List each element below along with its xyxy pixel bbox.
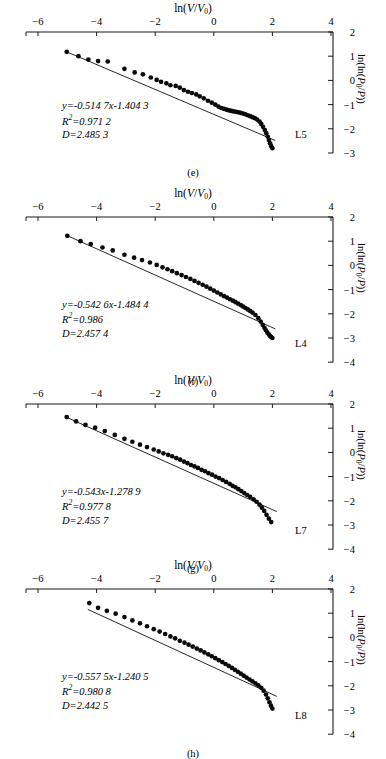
r2-g: R2=0.977 8 [62,498,141,513]
plot-area-g: ln(V/V0) −6−4−2024 210−1−2−3−4 ln(ln(P0/… [0,372,386,537]
scatter-canvas-g [0,372,386,563]
chart-panel-e: ln(V/V0) −6−4−2024 210−1−2−3 ln(ln(P0/P)… [0,0,386,186]
r2-f: R2=0.986 [62,311,148,326]
scatter-canvas-h [0,557,386,748]
chart-panel-f: ln(V/V0) −6−4−2024 210−1−2−3−4 ln(ln(P0/… [0,185,386,372]
equation-g: y=-0.543x-1.278 9 [62,485,141,499]
plot-area-e: ln(V/V0) −6−4−2024 210−1−2−3 ln(ln(P0/P)… [0,0,386,165]
sample-label-g: L7 [295,525,307,536]
equation-box-g: y=-0.543x-1.278 9 R2=0.977 8 D=2.455 7 [62,485,141,528]
equation-h: y=-0.557 5x-1.240 5 [62,670,148,684]
chart-panel-g: ln(V/V0) −6−4−2024 210−1−2−3−4 ln(ln(P0/… [0,372,386,557]
sample-label-h: L8 [295,710,307,721]
plot-area-f: ln(V/V0) −6−4−2024 210−1−2−3−4 ln(ln(P0/… [0,185,386,350]
plot-area-h: ln(V/V0) −6−4−2024 210−1−2−3−4 ln(ln(P0/… [0,557,386,722]
r2-h: R2=0.980 8 [62,683,148,698]
fractal-dimension-f: D=2.457 4 [62,327,148,341]
chart-panel-h: ln(V/V0) −6−4−2024 210−1−2−3−4 ln(ln(P0/… [0,557,386,747]
r2-e: R2=0.971 2 [62,113,148,128]
equation-box-f: y=-0.542 6x-1.484 4 R2=0.986 D=2.457 4 [62,298,148,341]
sample-label-f: L4 [295,338,307,349]
equation-e: y=-0.514 7x-1.404 3 [62,99,148,113]
panel-caption-e: (e) [0,167,386,178]
sample-label-e: L5 [295,129,307,140]
equation-box-e: y=-0.514 7x-1.404 3 R2=0.971 2 D=2.485 3 [62,99,148,142]
equation-f: y=-0.542 6x-1.484 4 [62,298,148,312]
scatter-canvas-f [0,185,386,376]
equation-box-h: y=-0.557 5x-1.240 5 R2=0.980 8 D=2.442 5 [62,670,148,713]
panel-caption-h: (h) [0,748,386,759]
fractal-dimension-g: D=2.455 7 [62,514,141,528]
scatter-canvas-e [0,0,386,167]
fractal-dimension-e: D=2.485 3 [62,128,148,142]
fractal-dimension-h: D=2.442 5 [62,699,148,713]
